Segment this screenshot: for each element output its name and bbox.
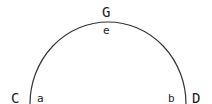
label-G: G <box>102 4 110 20</box>
label-D: D <box>192 90 200 104</box>
label-e: e <box>103 24 110 37</box>
label-b: b <box>168 92 175 104</box>
label-a: a <box>37 92 44 104</box>
label-C: C <box>11 90 19 104</box>
arc-diagram: C a G e b D <box>0 0 212 104</box>
